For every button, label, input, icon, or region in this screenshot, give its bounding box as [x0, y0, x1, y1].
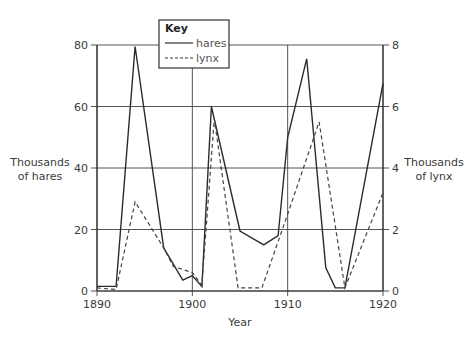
series-lynx	[97, 119, 383, 290]
legend-label-hares: hares	[196, 37, 227, 50]
y2-tick-label: 8	[392, 39, 399, 52]
y-tick-label: 40	[74, 162, 88, 175]
y-axis-title: of hares	[18, 170, 63, 183]
x-axis-title: Year	[227, 316, 252, 329]
y-tick-label: 60	[74, 101, 88, 114]
y2-axis-title: Thousands	[403, 156, 464, 169]
y-tick-label: 20	[74, 224, 88, 237]
hares-lynx-chart: 020406080024681890190019101920Thousandso…	[0, 0, 474, 348]
y-tick-label: 0	[81, 285, 88, 298]
y2-tick-label: 4	[392, 162, 399, 175]
y-tick-label: 80	[74, 39, 88, 52]
legend-label-lynx: lynx	[196, 52, 220, 65]
y2-axis-title: of lynx	[415, 170, 453, 183]
x-tick-label: 1900	[178, 298, 206, 311]
x-tick-label: 1890	[83, 298, 111, 311]
y2-tick-label: 2	[392, 224, 399, 237]
x-tick-label: 1910	[274, 298, 302, 311]
axis-labels: 020406080024681890190019101920Thousandso…	[9, 39, 464, 329]
legend-title: Key	[165, 22, 188, 35]
grid	[91, 45, 389, 296]
chart-canvas: 020406080024681890190019101920Thousandso…	[0, 0, 474, 348]
x-tick-label: 1920	[369, 298, 397, 311]
legend: Keyhareslynx	[159, 20, 229, 68]
y-axis-title: Thousands	[9, 156, 70, 169]
series-hares	[97, 47, 383, 288]
y2-tick-label: 0	[392, 285, 399, 298]
y2-tick-label: 6	[392, 101, 399, 114]
